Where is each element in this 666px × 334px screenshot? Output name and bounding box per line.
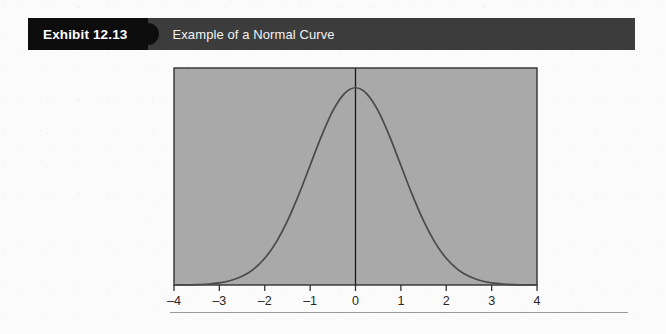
exhibit-number-label: Exhibit 12.13 (43, 27, 128, 42)
tab-notch-shape (137, 23, 159, 45)
x-axis-tick-label: 1 (397, 294, 404, 308)
x-axis-tick-label: –2 (258, 294, 272, 308)
x-axis-tick-label: –4 (167, 294, 181, 308)
x-axis-ticks (174, 285, 537, 291)
footer-divider-rule (170, 312, 628, 313)
x-axis-tick-label: 0 (352, 294, 359, 308)
exhibit-title-bar: Example of a Normal Curve (148, 18, 636, 50)
x-axis-tick-label: 3 (488, 294, 495, 308)
x-axis-tick-labels: –4–3–2–101234 (167, 294, 540, 308)
normal-curve-chart: –4–3–2–101234 (0, 0, 666, 334)
x-axis-tick-label: –1 (303, 294, 317, 308)
chart-svg: –4–3–2–101234 (0, 0, 666, 334)
exhibit-title-label: Example of a Normal Curve (173, 27, 335, 42)
x-axis-tick-label: –3 (212, 294, 226, 308)
x-axis-tick-label: 4 (534, 294, 541, 308)
exhibit-number-tab: Exhibit 12.13 (28, 18, 148, 50)
exhibit-header: Exhibit 12.13 Example of a Normal Curve (28, 18, 635, 50)
x-axis-tick-label: 2 (443, 294, 450, 308)
